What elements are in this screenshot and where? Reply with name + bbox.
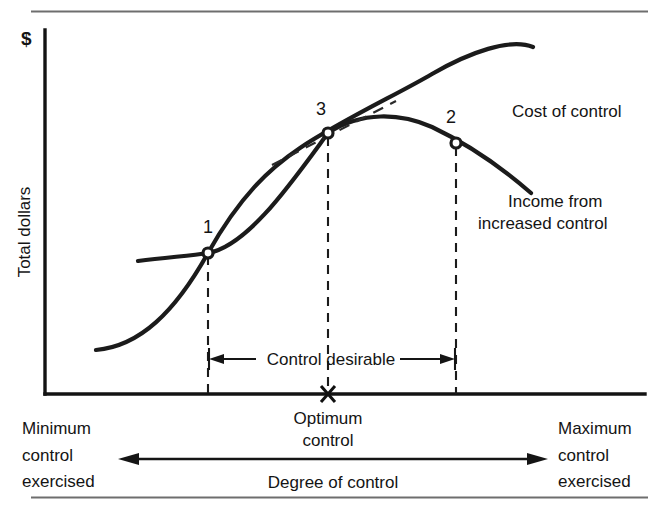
point-label-1: 1 (203, 217, 213, 237)
inflection-marker-3 (323, 128, 333, 138)
income-label-line-1: Income from (508, 192, 602, 211)
optimum-label-line-1: Optimum (294, 409, 363, 428)
intersection-marker-2 (451, 138, 461, 148)
maximum-control-line-2: control (558, 446, 609, 465)
x-axis-title: Degree of control (268, 473, 398, 492)
point-label-2: 2 (446, 107, 456, 127)
degree-arrowhead-left (118, 453, 139, 465)
minimum-control-label: Minimum control exercised (22, 419, 95, 491)
maximum-control-line-1: Maximum (558, 419, 632, 438)
figure-container: $ Total dollars 1 3 2 Cost of control In… (0, 0, 666, 511)
control-desirable-label: Control desirable (267, 350, 396, 369)
degree-arrowhead-right (527, 453, 548, 465)
y-axis-title: Total dollars (15, 187, 34, 278)
point-label-3: 3 (316, 99, 326, 119)
cost-of-control-curve (96, 44, 533, 350)
control-desirable-span: Control desirable (209, 348, 455, 370)
minimum-control-line-2: control (22, 446, 73, 465)
degree-of-control-axis-arrow (118, 453, 548, 465)
y-axis-unit-symbol: $ (21, 28, 32, 49)
span-arrowhead-right (440, 354, 455, 364)
income-label-line-2: increased control (478, 214, 607, 233)
minimum-control-line-1: Minimum (22, 419, 91, 438)
intersection-marker-1 (203, 248, 213, 258)
cost-of-control-label: Cost of control (512, 102, 622, 121)
maximum-control-label: Maximum control exercised (558, 419, 632, 491)
optimum-label-line-2: control (302, 431, 353, 450)
maximum-control-line-3: exercised (558, 472, 631, 491)
income-from-increased-control-curve (138, 116, 531, 261)
span-arrowhead-left (209, 354, 224, 364)
minimum-control-line-3: exercised (22, 472, 95, 491)
